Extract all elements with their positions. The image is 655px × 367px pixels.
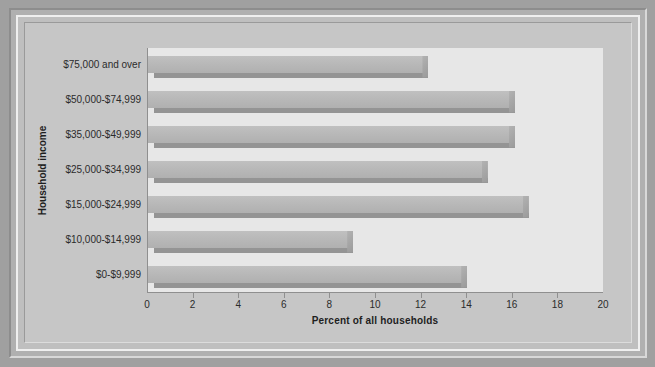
chart-canvas: Household income $75,000 and over$50,000…	[25, 23, 631, 342]
bar-shadow	[154, 73, 428, 78]
bar-face	[148, 161, 488, 178]
figure-frame-outer: Household income $75,000 and over$50,000…	[9, 8, 647, 358]
bar	[148, 91, 515, 113]
bar-shadow	[154, 143, 515, 148]
bar-end-cap	[509, 126, 515, 148]
x-axis-title: Percent of all households	[147, 315, 603, 326]
bar-face	[148, 56, 428, 73]
figure: Household income $75,000 and over$50,000…	[0, 0, 655, 367]
y-axis-tick-label: $15,000-$24,999	[65, 199, 141, 210]
bar-end-cap	[422, 56, 428, 78]
x-axis-tick-label: 20	[597, 299, 608, 310]
y-axis-tick-labels: $75,000 and over$50,000-$74,999$35,000-$…	[25, 48, 147, 293]
bar-shadow	[154, 213, 529, 218]
y-axis-tick-label: $10,000-$14,999	[65, 234, 141, 245]
figure-frame-inner: Household income $75,000 and over$50,000…	[24, 22, 632, 343]
bar-end-cap	[509, 91, 515, 113]
bar-face	[148, 266, 467, 283]
bar-end-cap	[482, 161, 488, 183]
x-axis-tick-mark	[375, 293, 376, 298]
x-axis-tick-mark	[284, 293, 285, 298]
bar-end-cap	[347, 231, 353, 253]
y-axis-tick-label: $25,000-$34,999	[65, 164, 141, 175]
x-axis-tick-label: 14	[461, 299, 472, 310]
bar-end-cap	[461, 266, 467, 288]
x-axis-tick-label: 12	[415, 299, 426, 310]
x-axis-tick-mark	[421, 293, 422, 298]
bar-shadow	[154, 108, 515, 113]
x-axis-tick-label: 6	[281, 299, 287, 310]
x-axis-tick-label: 0	[144, 299, 150, 310]
bar	[148, 126, 515, 148]
bar-face	[148, 196, 529, 213]
bar-end-cap	[523, 196, 529, 218]
bar-face	[148, 126, 515, 143]
bar	[148, 231, 353, 253]
x-axis-tick-mark	[557, 293, 558, 298]
bar	[148, 196, 529, 218]
bar-face	[148, 231, 353, 248]
x-axis-tick-label: 16	[506, 299, 517, 310]
x-axis-tick-mark	[193, 293, 194, 298]
x-axis-tick-label: 8	[327, 299, 333, 310]
bar	[148, 266, 467, 288]
plot-area	[147, 48, 603, 293]
x-axis-tick-mark	[512, 293, 513, 298]
x-axis-tick-label: 18	[552, 299, 563, 310]
y-axis-tick-label: $35,000-$49,999	[65, 129, 141, 140]
y-axis-tick-label: $75,000 and over	[63, 59, 141, 70]
x-axis-tick-label: 10	[369, 299, 380, 310]
bar	[148, 161, 488, 183]
x-axis-tick-mark	[238, 293, 239, 298]
x-axis-tick-label: 4	[235, 299, 241, 310]
x-axis-tick-mark	[466, 293, 467, 298]
bar-shadow	[154, 178, 488, 183]
x-axis-tick-label: 2	[190, 299, 196, 310]
x-axis-tick-mark	[329, 293, 330, 298]
y-axis-tick-label: $50,000-$74,999	[65, 94, 141, 105]
y-axis-tick-label: $0-$9,999	[96, 269, 141, 280]
bar-shadow	[154, 283, 467, 288]
figure-frame-white: Household income $75,000 and over$50,000…	[16, 15, 640, 351]
bar-face	[148, 91, 515, 108]
bar-shadow	[154, 248, 353, 253]
bar	[148, 56, 428, 78]
